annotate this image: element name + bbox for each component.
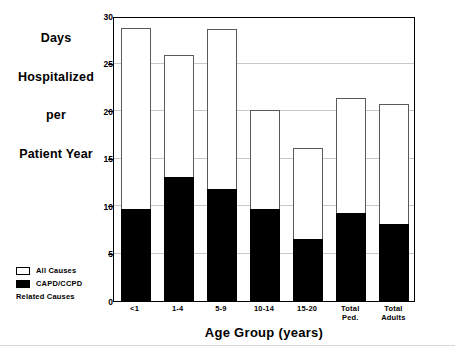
x-axis-tick-label: <1 (113, 304, 156, 313)
y-axis-tick-label: 10 (87, 203, 113, 212)
legend-label-capd-ccpd: CAPD/CCPD (36, 279, 82, 288)
x-axis-title: Age Group (years) (113, 325, 415, 340)
bar-group[interactable] (379, 16, 409, 301)
bar-group[interactable] (164, 16, 194, 301)
chart-legend: All Causes CAPD/CCPD Related Causes (16, 266, 112, 305)
x-axis-tick-label: Total Adults (372, 304, 415, 323)
bar-capd-ccpd-related[interactable] (293, 239, 323, 301)
bar-capd-ccpd-related[interactable] (336, 213, 366, 301)
scan-artifact (0, 345, 455, 346)
y-axis-tick-label: 20 (87, 108, 113, 117)
legend-sublabel-related-causes: Related Causes (16, 292, 75, 301)
plot-area (113, 17, 415, 302)
legend-swatch-black-icon (16, 280, 30, 288)
bar-capd-ccpd-related[interactable] (379, 224, 409, 301)
bar-group[interactable] (207, 16, 237, 301)
x-axis-tick-label: 10-14 (242, 304, 285, 313)
y-axis: 051015202530 (84, 17, 113, 302)
y-axis-tick-label: 25 (87, 60, 113, 69)
chart-figure: Days Hospitalized per Patient Year 05101… (0, 0, 455, 350)
bar-capd-ccpd-related[interactable] (121, 209, 151, 301)
y-axis-tick-label: 5 (87, 250, 113, 259)
legend-label-all-causes: All Causes (36, 266, 76, 275)
legend-item-capd-ccpd: CAPD/CCPD (16, 279, 112, 288)
bar-group[interactable] (121, 16, 151, 301)
bar-group[interactable] (293, 16, 323, 301)
x-axis-tick-label: 5-9 (199, 304, 242, 313)
bar-capd-ccpd-related[interactable] (164, 177, 194, 301)
y-axis-tick-label: 15 (87, 155, 113, 164)
legend-swatch-white-icon (16, 267, 30, 275)
bar-capd-ccpd-related[interactable] (250, 209, 280, 301)
legend-item-capd-ccpd-sub: Related Causes (16, 292, 112, 301)
x-axis-tick-label: 1-4 (156, 304, 199, 313)
bar-group[interactable] (336, 16, 366, 301)
x-axis-tick-label: Total Ped. (329, 304, 372, 323)
bar-group[interactable] (250, 16, 280, 301)
legend-item-all-causes: All Causes (16, 266, 112, 275)
x-axis-tick-label: 15-20 (286, 304, 329, 313)
y-axis-tick-label: 30 (87, 13, 113, 22)
bar-capd-ccpd-related[interactable] (207, 189, 237, 301)
bar-series (114, 18, 414, 301)
